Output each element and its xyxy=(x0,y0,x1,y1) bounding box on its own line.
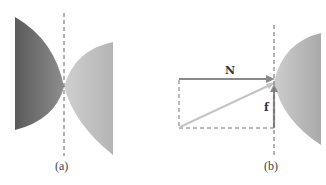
figure-canvas xyxy=(0,0,326,185)
panel-a xyxy=(15,13,113,156)
caption-a: (a) xyxy=(55,159,68,174)
friction-force-label: f xyxy=(264,101,269,114)
light-body-right xyxy=(64,42,113,155)
dark-body-left xyxy=(15,17,64,130)
caption-b: (b) xyxy=(264,159,278,174)
light-body-b xyxy=(274,33,321,145)
resultant-vector xyxy=(180,84,272,127)
normal-force-label: N xyxy=(225,64,235,77)
panel-b xyxy=(179,25,321,156)
